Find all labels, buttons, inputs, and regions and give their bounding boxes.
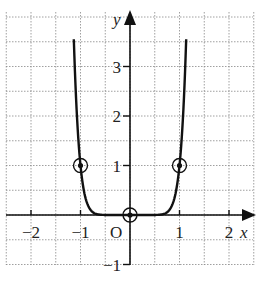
point-marker-dot xyxy=(127,212,132,217)
point-marker-dot xyxy=(78,163,83,168)
y-axis-label: y xyxy=(111,10,121,29)
y-tick-label: 2 xyxy=(113,107,122,126)
x-tick-label: −1 xyxy=(71,223,89,242)
x-tick-label: −2 xyxy=(22,223,40,242)
x-tick-label: 2 xyxy=(225,223,234,242)
y-tick-label: 1 xyxy=(113,157,122,176)
origin-label: O xyxy=(110,223,122,242)
point-marker-dot xyxy=(177,163,182,168)
axes xyxy=(6,10,256,265)
function-graph: −2−112−1123 x y O xyxy=(0,0,261,283)
y-tick-label: 3 xyxy=(113,58,122,77)
x-tick-label: 1 xyxy=(175,223,184,242)
x-axis-label: x xyxy=(239,223,248,242)
y-tick-label: −1 xyxy=(103,256,121,275)
y-axis-arrow-icon xyxy=(124,10,136,25)
